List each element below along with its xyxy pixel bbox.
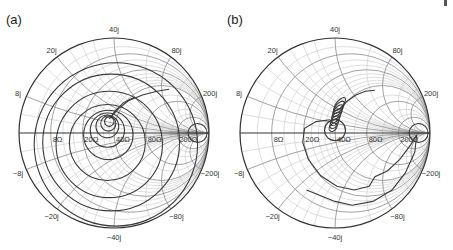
impedance-trace-loop — [56, 91, 162, 197]
reactance-label: −200j — [422, 169, 441, 178]
reactance-label: 8j — [236, 89, 242, 98]
resistance-label: 8Ω — [53, 135, 63, 144]
smith-chart-b: 8Ω20Ω40Ω80Ω200Ω8j20j40j80j200j−8j−20j−40… — [221, 0, 447, 250]
reactance-label: −20j — [44, 212, 59, 221]
reactance-label: −40j — [107, 233, 122, 242]
reactance-label: 80j — [171, 46, 181, 55]
reactance-label: −200j — [201, 169, 220, 178]
smith-chart-a: 8Ω20Ω40Ω80Ω200Ω8j20j40j80j200j−8j−20j−40… — [0, 0, 226, 250]
resistance-label: 20Ω — [305, 135, 319, 144]
reactance-arc — [240, 133, 453, 250]
reactance-label: 8j — [15, 89, 21, 98]
reactance-label: 80j — [392, 46, 402, 55]
resistance-label: 200Ω — [179, 135, 198, 144]
reactance-label: 40j — [330, 25, 340, 34]
smith-chart-panel-a: (a) 8Ω20Ω40Ω80Ω200Ω8j20j40j80j200j−8j−20… — [0, 0, 226, 250]
smith-chart-panel-b: (b) 8Ω20Ω40Ω80Ω200Ω8j20j40j80j200j−8j−20… — [221, 0, 447, 250]
reactance-label: −8j — [13, 169, 24, 178]
resistance-label: 40Ω — [337, 135, 351, 144]
reactance-label: −80j — [390, 212, 405, 221]
reactance-label: −20j — [265, 212, 280, 221]
resistance-label: 8Ω — [274, 135, 284, 144]
reactance-gridline — [193, 133, 453, 250]
resistance-label: 20Ω — [84, 135, 98, 144]
reactance-label: 40j — [109, 25, 119, 34]
reactance-arc — [240, 0, 453, 133]
reactance-gridline — [193, 0, 453, 133]
impedance-trace-tail — [110, 89, 169, 118]
reactance-label: 200j — [203, 89, 218, 98]
resistance-label: 80Ω — [148, 135, 162, 144]
reactance-arc — [335, 133, 453, 250]
reactance-label: 20j — [47, 46, 57, 55]
reactance-label: −80j — [169, 212, 184, 221]
reactance-label: 20j — [268, 46, 278, 55]
reactance-gridline — [294, 133, 453, 250]
reactance-label: 200j — [424, 89, 439, 98]
resistance-label: 80Ω — [369, 135, 383, 144]
reactance-label: −40j — [328, 233, 343, 242]
resistance-label: 200Ω — [400, 135, 419, 144]
resistance-label: 40Ω — [116, 135, 130, 144]
page-corner-mark — [444, 0, 447, 6]
reactance-label: −8j — [234, 169, 245, 178]
